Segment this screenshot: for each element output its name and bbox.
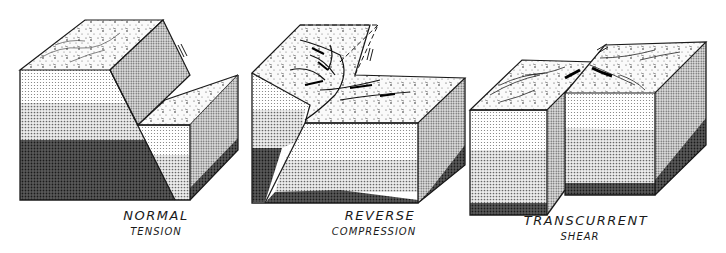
normal-fault-block bbox=[20, 20, 238, 200]
right-front-mid bbox=[565, 128, 655, 183]
transcurrent-fault-block bbox=[470, 42, 706, 215]
reverse-fault-block bbox=[252, 25, 465, 203]
right-front-dark bbox=[565, 183, 655, 195]
transcurrent-title: TRANSCURRENT bbox=[524, 213, 648, 228]
left-front-mid bbox=[470, 150, 547, 203]
transcurrent-subtitle: SHEAR bbox=[561, 231, 600, 242]
reverse-title: REVERSE bbox=[345, 208, 415, 223]
footwall-layer-mid bbox=[20, 103, 146, 140]
main-front-mid bbox=[275, 160, 418, 192]
normal-title: NORMAL bbox=[123, 208, 188, 223]
right-front-light bbox=[565, 93, 655, 130]
footwall-layer-top bbox=[20, 70, 127, 103]
main-front-light bbox=[285, 123, 418, 160]
normal-subtitle: TENSION bbox=[130, 226, 182, 237]
slip-arrow-icon bbox=[367, 48, 373, 61]
left-side-face bbox=[547, 93, 565, 215]
reverse-subtitle: COMPRESSION bbox=[332, 226, 416, 237]
left-front-light bbox=[470, 110, 547, 150]
